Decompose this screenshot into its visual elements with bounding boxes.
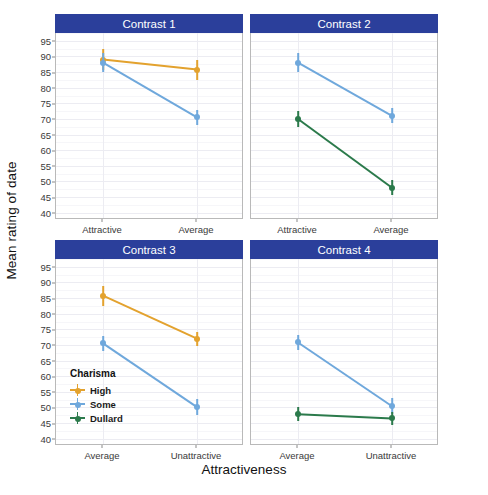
y-tick-label: 85 (21, 67, 51, 78)
y-axis-ticks: 959085807570656055504540 (21, 33, 51, 219)
y-tick-label: 40 (21, 207, 51, 218)
facet-panel-1: Contrast 1 (55, 14, 243, 219)
legend-item-high[interactable]: High (70, 383, 123, 397)
y-tick-label: 95 (21, 261, 51, 272)
line-series-some (298, 342, 392, 406)
line-series-some (103, 63, 197, 118)
data-point (389, 415, 395, 421)
x-tick-label: Average (279, 450, 314, 461)
y-tick-label: 80 (21, 308, 51, 319)
series-lines (56, 33, 243, 219)
line-series-dullard (298, 414, 392, 418)
data-point (194, 67, 200, 73)
x-tick-label: Average (373, 224, 408, 235)
facet-panel-4: Contrast 4 (250, 240, 438, 445)
y-tick-label: 45 (21, 192, 51, 203)
legend-swatch-icon (70, 397, 85, 411)
legend-item-label: High (90, 385, 111, 396)
line-series-dullard (298, 119, 392, 188)
y-tick-label: 75 (21, 98, 51, 109)
x-tick-mark (102, 445, 103, 448)
y-tick-label: 70 (21, 113, 51, 124)
data-point (295, 116, 301, 122)
data-point (389, 113, 395, 119)
line-series-high (103, 60, 197, 70)
y-tick-label: 60 (21, 371, 51, 382)
plot-area (250, 33, 438, 219)
y-axis-title: Mean rating of date (0, 0, 22, 440)
line-series-some (298, 63, 392, 116)
y-tick-label: 50 (21, 402, 51, 413)
data-point (295, 60, 301, 66)
data-point (100, 293, 106, 299)
legend-swatch-icon (70, 411, 85, 425)
legend: CharismaHighSomeDullard (70, 368, 123, 425)
panel-strip-label: Contrast 2 (250, 14, 438, 33)
data-point (389, 185, 395, 191)
y-tick-label: 50 (21, 176, 51, 187)
y-tick-label: 55 (21, 160, 51, 171)
y-tick-label: 45 (21, 418, 51, 429)
data-point (100, 340, 106, 346)
plot-area: CharismaHighSomeDullard (55, 259, 243, 445)
x-tick-mark (297, 219, 298, 222)
panel-strip-label: Contrast 3 (55, 240, 243, 259)
y-axis-ticks: 959085807570656055504540 (21, 259, 51, 445)
legend-item-some[interactable]: Some (70, 397, 123, 411)
x-tick-label: Unattractive (366, 450, 417, 461)
facet-panel-3: Contrast 3CharismaHighSomeDullard (55, 240, 243, 445)
legend-title: Charisma (70, 368, 123, 379)
legend-swatch-icon (70, 383, 85, 397)
x-tick-mark (196, 219, 197, 222)
y-tick-label: 40 (21, 433, 51, 444)
y-tick-label: 85 (21, 293, 51, 304)
facet-panel-2: Contrast 2 (250, 14, 438, 219)
y-tick-label: 65 (21, 355, 51, 366)
y-tick-label: 90 (21, 51, 51, 62)
x-tick-label: Unattractive (171, 450, 222, 461)
y-tick-label: 55 (21, 386, 51, 397)
data-point (194, 404, 200, 410)
y-tick-label: 65 (21, 129, 51, 140)
panel-strip-label: Contrast 4 (250, 240, 438, 259)
x-tick-mark (297, 445, 298, 448)
series-lines (251, 259, 438, 445)
y-tick-label: 70 (21, 339, 51, 350)
data-point (194, 114, 200, 120)
x-tick-label: Average (84, 450, 119, 461)
data-point (194, 336, 200, 342)
series-lines (251, 33, 438, 219)
legend-item-dullard[interactable]: Dullard (70, 411, 123, 425)
x-tick-label: Attractive (82, 224, 122, 235)
panel-strip-label: Contrast 1 (55, 14, 243, 33)
plot-area (250, 259, 438, 445)
legend-item-label: Some (90, 399, 116, 410)
x-tick-mark (196, 445, 197, 448)
y-tick-label: 90 (21, 277, 51, 288)
y-tick-label: 80 (21, 82, 51, 93)
plot-area (55, 33, 243, 219)
chart-figure: Mean rating of date Attractiveness Contr… (0, 0, 488, 495)
data-point (295, 339, 301, 345)
y-tick-label: 60 (21, 145, 51, 156)
x-tick-mark (391, 219, 392, 222)
legend-item-label: Dullard (90, 413, 123, 424)
line-series-high (103, 296, 197, 339)
x-tick-label: Attractive (277, 224, 317, 235)
x-tick-mark (391, 445, 392, 448)
y-tick-label: 95 (21, 35, 51, 46)
x-axis-title: Attractiveness (0, 462, 488, 477)
x-tick-mark (102, 219, 103, 222)
y-tick-label: 75 (21, 324, 51, 335)
x-tick-label: Average (178, 224, 213, 235)
data-point (100, 60, 106, 66)
data-point (389, 403, 395, 409)
data-point (295, 411, 301, 417)
